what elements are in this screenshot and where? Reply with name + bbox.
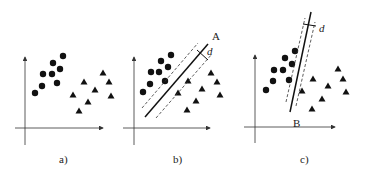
class-triangle-point (106, 79, 113, 85)
class-circle-point (50, 60, 56, 66)
class-circle-point (60, 53, 66, 59)
class-circle-point (32, 90, 38, 96)
hyperplane-label: A (212, 30, 220, 42)
class-triangle-point (217, 92, 224, 98)
class-circle-point (39, 83, 45, 89)
class-triangle-point (100, 70, 107, 76)
panel-b: Adb) (123, 30, 224, 166)
class-triangle-point (92, 87, 99, 93)
panel-caption: b) (173, 153, 183, 166)
class-circle-point (147, 81, 153, 87)
panel-caption: c) (300, 153, 309, 166)
class-triangle-point (208, 70, 215, 76)
class-circle-point (271, 67, 277, 73)
class-circle-point (168, 52, 174, 58)
class-circle-point (156, 69, 162, 75)
class-triangle-point (214, 79, 221, 85)
class-triangle-point (81, 79, 88, 85)
class-triangle-point (76, 108, 83, 114)
class-triangle-point (199, 86, 206, 92)
class-circle-point (165, 64, 171, 70)
class-circle-point (40, 71, 46, 77)
margin-label: d (207, 45, 213, 57)
svm-margin-figure: a) Adb) Bdc) (0, 0, 366, 179)
class-triangle-point (325, 83, 332, 89)
class-circle-point (158, 58, 164, 64)
margin-label: d (319, 22, 325, 34)
panel-caption: a) (59, 153, 68, 166)
class-triangle-point (319, 96, 326, 102)
class-circle-point (54, 80, 60, 86)
hyperplane-label: B (293, 117, 300, 129)
class-circle-point (49, 71, 55, 77)
class-circle-point (280, 67, 286, 73)
class-triangle-point (85, 99, 92, 105)
panel-c: Bdc) (244, 12, 350, 166)
class-circle-point (270, 78, 276, 84)
class-triangle-point (340, 76, 347, 82)
class-triangle-point (193, 98, 200, 104)
class-triangle-point (343, 89, 350, 95)
class-triangle-point (310, 76, 317, 82)
panel-a: a) (15, 53, 115, 166)
class-triangle-point (309, 106, 316, 112)
class-triangle-point (70, 92, 77, 98)
separating-hyperplane (145, 44, 208, 117)
class-circle-point (57, 66, 63, 72)
class-triangle-point (184, 107, 191, 113)
class-triangle-point (108, 93, 115, 99)
class-circle-point (148, 69, 154, 75)
margin-boundary-line (156, 54, 212, 118)
class-circle-point (140, 89, 146, 95)
class-triangle-point (335, 66, 342, 72)
class-circle-point (263, 87, 269, 93)
class-circle-point (282, 55, 288, 61)
